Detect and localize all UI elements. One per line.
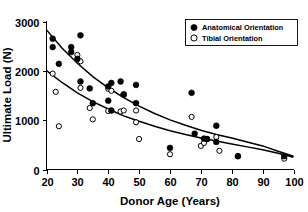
x-axis-tick-labels: 2030405060708090100 — [41, 176, 303, 188]
data-point-anatomical — [78, 79, 84, 85]
data-point-anatomical — [118, 79, 124, 85]
data-point-anatomical — [90, 100, 96, 106]
data-point-tibial — [217, 148, 222, 153]
data-point-anatomical — [204, 136, 210, 142]
data-point-tibial — [56, 124, 61, 129]
data-point-tibial — [167, 152, 172, 157]
legend-marker-open-circle-icon — [191, 35, 197, 41]
x-tick-label: 70 — [195, 176, 207, 188]
data-point-anatomical — [192, 131, 198, 137]
data-point-anatomical — [56, 61, 62, 67]
data-point-tibial — [87, 105, 92, 110]
scatter-plot: 2030405060708090100 0100020003000 Donor … — [0, 0, 308, 212]
legend-marker-filled-circle-icon — [191, 24, 197, 30]
data-point-anatomical — [50, 44, 56, 50]
data-point-anatomical — [87, 85, 93, 91]
series-tibial-orientation-points — [50, 52, 287, 161]
y-axis-tick-labels: 0100020003000 — [15, 17, 39, 177]
x-tick-label: 60 — [164, 176, 176, 188]
data-point-anatomical — [68, 49, 74, 55]
series-anatomical-orientation-points — [50, 32, 287, 159]
x-axis-ticks — [48, 170, 295, 174]
data-point-anatomical — [235, 153, 241, 159]
y-tick-label: 3000 — [15, 17, 39, 29]
data-point-tibial — [137, 136, 142, 141]
data-point-anatomical — [189, 90, 195, 96]
data-point-anatomical — [213, 123, 219, 129]
legend: Anatomical Orientation Tibial Orientatio… — [186, 20, 298, 46]
data-point-anatomical — [108, 108, 114, 114]
x-tick-label: 50 — [133, 176, 145, 188]
data-point-anatomical — [74, 56, 80, 62]
data-point-tibial — [121, 108, 126, 113]
y-tick-label: 2000 — [15, 66, 39, 78]
data-point-anatomical — [133, 82, 139, 88]
legend-label-anatomical: Anatomical Orientation — [202, 23, 284, 32]
data-point-anatomical — [281, 153, 287, 159]
chart-figure: 2030405060708090100 0100020003000 Donor … — [0, 0, 308, 212]
x-tick-label: 20 — [41, 176, 53, 188]
x-tick-label: 80 — [226, 176, 238, 188]
data-point-anatomical — [50, 36, 56, 42]
legend-label-tibial: Tibial Orientation — [202, 34, 263, 43]
data-point-anatomical — [213, 139, 219, 145]
x-tick-label: 100 — [285, 176, 303, 188]
data-point-tibial — [53, 89, 58, 94]
fit-curves-group — [47, 30, 294, 157]
data-point-anatomical — [108, 80, 114, 86]
data-point-anatomical — [78, 32, 84, 38]
data-point-tibial — [50, 71, 55, 76]
data-point-tibial — [189, 114, 194, 119]
data-point-anatomical — [133, 100, 139, 106]
data-point-anatomical — [167, 145, 173, 151]
data-point-tibial — [133, 108, 138, 113]
x-tick-label: 40 — [102, 176, 114, 188]
x-tick-label: 90 — [257, 176, 269, 188]
data-point-tibial — [90, 117, 95, 122]
data-point-anatomical — [105, 98, 111, 104]
y-tick-label: 0 — [33, 165, 39, 177]
x-axis-title: Donor Age (Years) — [120, 195, 220, 207]
y-axis-title: Ultimate Load (N) — [1, 47, 13, 142]
data-point-tibial — [133, 120, 138, 125]
data-point-tibial — [78, 85, 83, 90]
data-point-anatomical — [121, 92, 127, 98]
y-tick-label: 1000 — [15, 115, 39, 127]
x-tick-label: 30 — [71, 176, 83, 188]
y-axis-ticks — [43, 23, 47, 171]
fit-curve-line — [47, 30, 294, 156]
